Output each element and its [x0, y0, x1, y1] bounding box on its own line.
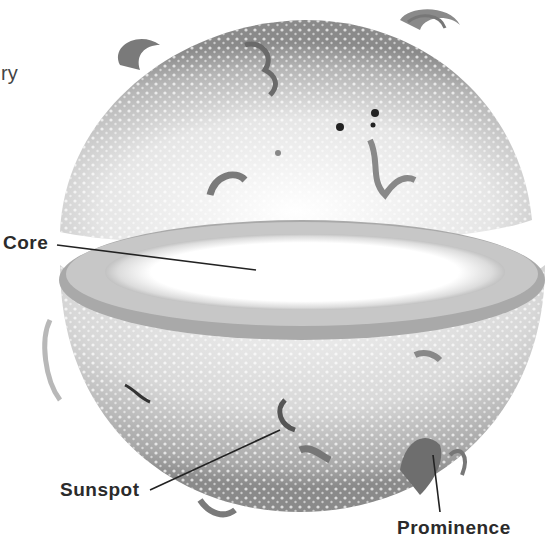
- core-label: Core: [3, 232, 48, 254]
- partial-caption-text: ry: [1, 62, 18, 85]
- lower-hemisphere: [45, 220, 545, 514]
- sun-illustration: [0, 0, 552, 538]
- sunspot-label: Sunspot: [60, 479, 140, 501]
- prominence-label: Prominence: [397, 517, 511, 538]
- upper-hemisphere: [60, 9, 532, 245]
